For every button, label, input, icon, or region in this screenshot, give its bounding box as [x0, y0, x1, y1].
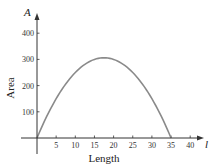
area-vs-length-chart: 100200300400 510152025303540 l A Length …	[0, 0, 213, 168]
area-curve	[37, 58, 171, 138]
x-tick-label: 35	[167, 141, 175, 150]
y-tick-label: 300	[22, 55, 34, 64]
x-axis-variable: l	[205, 138, 208, 150]
y-axis-variable: A	[23, 6, 31, 18]
x-axis-label: Length	[88, 152, 120, 164]
x-tick-label: 10	[71, 141, 79, 150]
y-axis-arrow-icon	[35, 13, 40, 20]
x-tick-label: 40	[186, 141, 194, 150]
y-axis-label: Area	[4, 77, 16, 98]
x-tick-label: 5	[54, 141, 58, 150]
y-tick-label: 200	[22, 82, 34, 91]
x-tick-label: 15	[90, 141, 98, 150]
x-tick-label: 30	[148, 141, 156, 150]
x-tick-label: 25	[129, 141, 137, 150]
y-tick-label: 100	[22, 108, 34, 117]
x-tick-label: 20	[110, 141, 118, 150]
x-axis-arrow-icon	[197, 136, 204, 141]
y-tick-label: 400	[22, 29, 34, 38]
